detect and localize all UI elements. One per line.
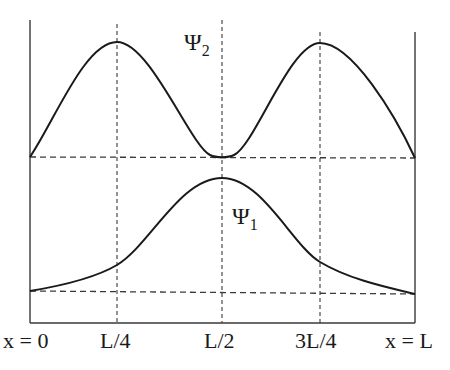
psi2-subscript: 2 [202, 42, 210, 59]
tick-xl: x = L [385, 330, 433, 352]
wavefunction-diagram [0, 0, 450, 370]
tick-l4: L/4 [100, 330, 131, 352]
psi1-subscript: 1 [250, 216, 258, 233]
psi2-label: Ψ2 [184, 30, 210, 59]
psi1-symbol: Ψ [232, 203, 250, 229]
tick-l2: L/2 [204, 330, 235, 352]
tick-x0: x = 0 [3, 330, 48, 352]
tick-3l4: 3L/4 [295, 330, 337, 352]
psi1-label: Ψ1 [232, 204, 258, 233]
psi2-symbol: Ψ [184, 29, 202, 55]
